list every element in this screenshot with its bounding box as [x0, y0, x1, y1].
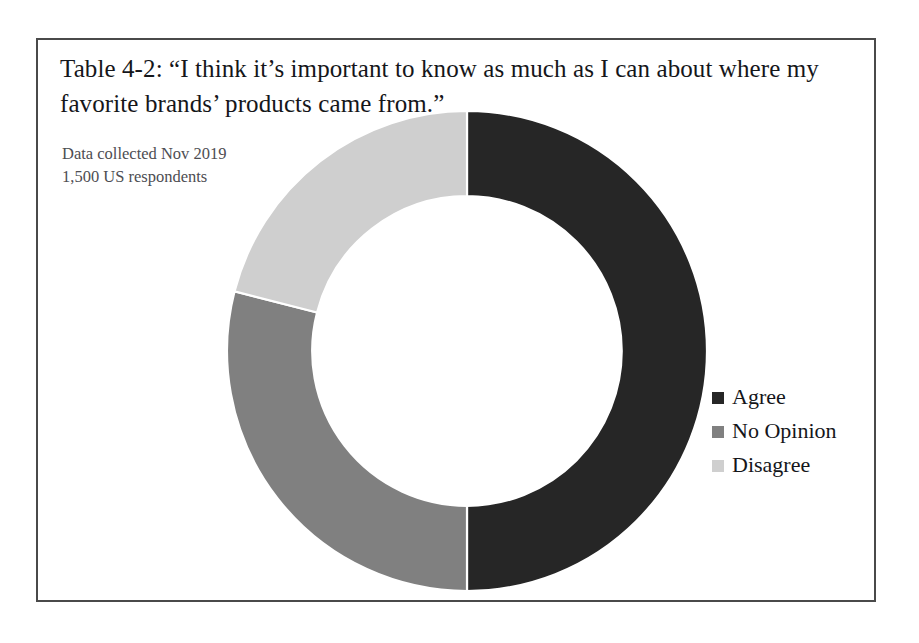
legend-label: Disagree — [732, 454, 810, 476]
donut-chart — [227, 111, 707, 591]
donut-slice-disagree — [235, 111, 467, 313]
chart-legend: AgreeNo OpinionDisagree — [712, 380, 872, 482]
legend-item-disagree: Disagree — [712, 448, 872, 482]
legend-item-no-opinion: No Opinion — [712, 414, 872, 448]
donut-slice-group — [227, 111, 707, 591]
legend-swatch-icon — [712, 426, 724, 438]
donut-slice-no-opinion — [227, 291, 467, 591]
figure-frame: Table 4-2: “I think it’s important to kn… — [36, 38, 876, 602]
legend-swatch-icon — [712, 392, 724, 404]
donut-slice-agree — [467, 111, 707, 591]
legend-item-agree: Agree — [712, 380, 872, 414]
donut-chart-area — [38, 40, 878, 604]
legend-label: No Opinion — [732, 420, 837, 442]
legend-label: Agree — [732, 386, 786, 408]
legend-swatch-icon — [712, 460, 724, 472]
